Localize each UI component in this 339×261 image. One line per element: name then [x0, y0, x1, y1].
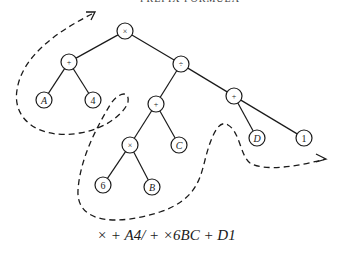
tree-node-root: ×: [117, 23, 133, 39]
tree-edge: [134, 111, 151, 138]
tree-edges: [48, 35, 297, 180]
node-label: 4: [91, 95, 96, 106]
node-label: A: [40, 95, 48, 106]
node-label: 6: [101, 180, 106, 191]
tree-edge: [160, 111, 175, 138]
expression-tree-diagram: ×+÷A4++×C6BD1: [0, 0, 339, 261]
tree-node-plus-mid: +: [148, 96, 164, 112]
node-label: ×: [128, 141, 133, 150]
tree-node-plus-left: +: [61, 54, 77, 70]
tree-node-four: 4: [85, 92, 101, 108]
tree-edge: [188, 68, 227, 92]
tree-edge: [134, 152, 149, 180]
tree-edge: [241, 100, 297, 134]
node-label: B: [149, 182, 155, 193]
tree-node-times-inner: ×: [122, 137, 138, 153]
node-label: D: [252, 133, 261, 144]
prefix-expression: × + A4/ + ×6BC + D1: [97, 227, 236, 244]
node-label: +: [154, 100, 159, 109]
tree-edge: [76, 35, 118, 58]
tree-edge: [48, 69, 64, 94]
node-label: +: [232, 92, 237, 101]
tree-node-C: C: [171, 137, 187, 153]
node-label: 1: [302, 133, 307, 144]
tree-node-A: A: [36, 92, 52, 108]
tree-edge: [238, 103, 253, 131]
tree-node-six: 6: [95, 177, 111, 193]
tree-node-divide: ÷: [173, 56, 189, 72]
tree-edge: [107, 152, 125, 179]
tree-nodes: ×+÷A4++×C6BD1: [36, 23, 312, 195]
node-label: +: [67, 58, 72, 67]
traversal-path: [16, 14, 325, 220]
tree-node-D: D: [249, 130, 265, 146]
node-label: ÷: [179, 60, 184, 69]
tree-edge: [160, 71, 177, 97]
tree-node-one: 1: [296, 130, 312, 146]
tree-edge: [73, 69, 88, 93]
node-label: ×: [123, 27, 128, 36]
tree-edge: [132, 35, 174, 60]
tree-node-plus-right: +: [226, 88, 242, 104]
tree-node-B: B: [144, 179, 160, 195]
node-label: C: [176, 140, 183, 151]
